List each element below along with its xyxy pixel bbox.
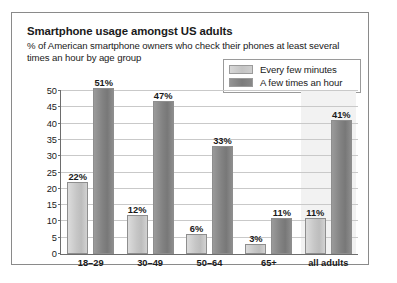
x-tick-label: 18–29	[78, 258, 104, 268]
legend-label-every-few-minutes: Every few minutes	[260, 64, 337, 75]
bar[interactable]: 11%	[305, 218, 326, 254]
bar-group: 12%47%30–49	[127, 91, 174, 254]
y-tick-label: 25	[47, 168, 57, 178]
y-tick-label: 30	[47, 151, 57, 161]
y-tick-label: 45	[47, 102, 57, 112]
x-tick-label: 65+	[261, 258, 277, 268]
bar-value-label: 11%	[306, 208, 324, 218]
bar-value-label: 6%	[190, 224, 203, 234]
y-tick-label: 50	[47, 86, 57, 96]
x-tick-label: all adults	[308, 258, 348, 268]
chart-figure-frame: Smartphone usage amongst US adults % of …	[11, 12, 369, 265]
chart-title: Smartphone usage amongst US adults	[27, 25, 232, 37]
y-tick-label: 40	[47, 119, 57, 129]
legend-item-every-few-minutes: Every few minutes	[229, 63, 355, 76]
bar[interactable]: 41%	[331, 120, 352, 254]
bar-value-label: 47%	[154, 91, 173, 101]
legend-swatch-icon-a-few-times-an-hour	[229, 78, 253, 87]
bar-value-label: 51%	[94, 78, 113, 88]
bar-value-label: 11%	[273, 208, 291, 218]
bar-group: 22%51%18–29	[67, 91, 114, 254]
legend-label-a-few-times-an-hour: A few times an hour	[260, 77, 342, 88]
bar[interactable]: 33%	[212, 146, 233, 254]
bar-group: 6%33%50–64	[186, 91, 233, 254]
legend-item-a-few-times-an-hour: A few times an hour	[229, 76, 355, 89]
x-tick-label: 30–49	[137, 258, 163, 268]
y-tick-label: 0	[52, 249, 57, 259]
y-tick-label: 15	[47, 200, 57, 210]
bar-value-label: 12%	[128, 205, 147, 215]
bar[interactable]: 3%	[245, 244, 266, 254]
plot-area: 05101520253035404550 22%51%18–2912%47%30…	[60, 91, 358, 255]
bars-layer: 22%51%18–2912%47%30–496%33%50–643%11%65+…	[61, 91, 358, 254]
y-tick-label: 20	[47, 184, 57, 194]
bar-value-label: 41%	[332, 110, 351, 120]
bar-group: 3%11%65+	[245, 91, 292, 254]
bar-value-label: 22%	[68, 172, 87, 182]
bar[interactable]: 22%	[67, 182, 88, 254]
y-tick-label: 35	[47, 135, 57, 145]
bar[interactable]: 47%	[153, 101, 174, 254]
bar[interactable]: 6%	[186, 234, 207, 254]
legend-swatch-icon-every-few-minutes	[229, 65, 253, 74]
y-tick-label: 5	[52, 233, 57, 243]
bar-value-label: 3%	[249, 234, 262, 244]
bar-group: 11%41%all adults	[305, 91, 352, 254]
bar[interactable]: 51%	[93, 88, 114, 254]
x-tick-label: 50–64	[197, 258, 223, 268]
bar[interactable]: 11%	[271, 218, 292, 254]
bar[interactable]: 12%	[127, 215, 148, 254]
y-tick-label: 10	[47, 216, 57, 226]
chart-legend: Every few minutes A few times an hour	[223, 59, 361, 93]
bar-value-label: 33%	[213, 136, 232, 146]
